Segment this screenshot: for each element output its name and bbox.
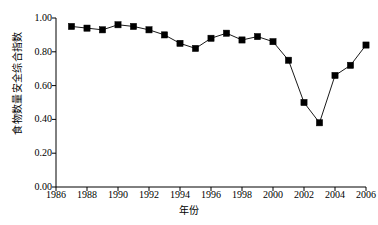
data-point xyxy=(99,27,105,33)
data-point xyxy=(254,33,260,39)
data-point xyxy=(115,22,121,28)
data-point xyxy=(301,99,307,105)
data-point xyxy=(363,42,369,48)
y-tick-label: 0.40 xyxy=(18,114,52,124)
data-point xyxy=(347,62,353,68)
x-tick-label: 2006 xyxy=(346,190,378,200)
data-point xyxy=(270,39,276,45)
y-tick-label: 0.80 xyxy=(18,47,52,57)
data-point xyxy=(285,57,291,63)
chart-container: 食物数量安全综合指数 0.000.200.400.600.801.00 1986… xyxy=(0,0,378,225)
data-point xyxy=(192,45,198,51)
data-point xyxy=(223,30,229,36)
data-point xyxy=(161,32,167,38)
x-axis-title: 年份 xyxy=(0,206,378,216)
data-point xyxy=(332,72,338,78)
data-point xyxy=(84,25,90,31)
data-point xyxy=(239,37,245,43)
y-axis-ticks xyxy=(52,18,56,187)
data-point xyxy=(208,35,214,41)
y-tick-label: 0.20 xyxy=(18,148,52,158)
axis-spines xyxy=(56,18,366,187)
data-point xyxy=(316,120,322,126)
y-tick-label: 0.60 xyxy=(18,81,52,91)
data-point xyxy=(68,23,74,29)
data-line xyxy=(72,25,367,123)
data-point xyxy=(177,40,183,46)
data-point xyxy=(130,23,136,29)
data-point xyxy=(146,27,152,33)
y-tick-label: 1.00 xyxy=(18,13,52,23)
